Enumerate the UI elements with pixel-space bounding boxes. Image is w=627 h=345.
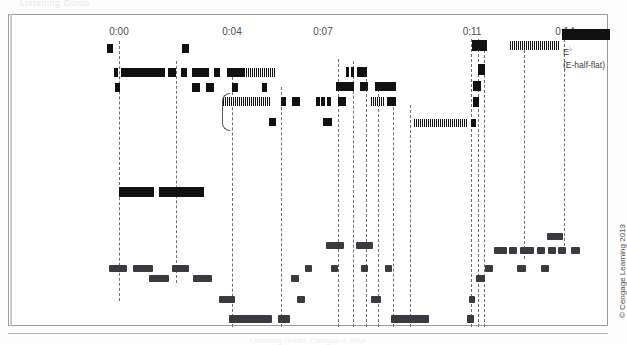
performance-event-bar [375, 82, 396, 91]
performance-event-bar [214, 68, 220, 77]
ghost-header-text: Listening Guide [20, 0, 180, 8]
timeline-plot-area: 0:000:040:070:110:14E♭(E-half-flat) [9, 15, 609, 327]
notation-bar [469, 296, 475, 303]
notation-bar [278, 315, 290, 323]
performance-event-bar [316, 97, 320, 106]
figure-caption-strip: Listening Guide: Dastgah-e Shur [8, 333, 608, 345]
notation-bar [385, 265, 392, 272]
correspondence-dotted-line [524, 45, 525, 259]
notation-bar [547, 233, 563, 240]
notation-bar [371, 296, 381, 303]
notation-bar [571, 247, 580, 254]
notation-bar [517, 265, 526, 272]
performance-event-bar [114, 68, 118, 77]
correspondence-dotted-line [471, 39, 472, 327]
performance-event-bar [223, 97, 271, 106]
performance-event-bar [246, 68, 276, 77]
performance-event-bar [510, 41, 560, 50]
correspondence-dotted-line [232, 77, 233, 327]
notation-bar [219, 296, 235, 303]
correspondence-dotted-line [353, 61, 354, 327]
notation-bar [558, 247, 566, 254]
notation-bar [520, 247, 534, 254]
pitch-label: E♭(E-half-flat) [563, 43, 605, 71]
time-tick-0-07: 0:07 [313, 26, 332, 37]
tetrachord-brace [222, 93, 230, 131]
performance-event-bar [323, 118, 332, 126]
performance-event-bar [192, 68, 209, 77]
notation-bar [541, 265, 549, 272]
performance-event-bar [206, 83, 214, 92]
figure-caption: Listening Guide: Dastgah-e Shur [8, 336, 608, 345]
performance-event-bar [181, 68, 187, 77]
correspondence-dotted-line [119, 41, 120, 301]
performance-event-bar [473, 97, 479, 107]
correspondence-dotted-line [366, 79, 367, 327]
pitch-name: (E-half-flat) [563, 60, 605, 71]
performance-event-bar [232, 83, 238, 92]
notation-bar [109, 265, 127, 272]
performance-event-bar [107, 44, 113, 53]
performance-event-bar [360, 82, 368, 91]
figure-frame: 0:000:040:070:110:14E♭(E-half-flat) [8, 14, 608, 326]
notation-bar [537, 247, 545, 254]
notation-bar [291, 275, 299, 282]
notation-bar [361, 265, 368, 272]
performance-event-bar [387, 97, 396, 106]
performance-event-bar [262, 83, 267, 92]
performance-event-bar [338, 97, 346, 106]
correspondence-dotted-line [378, 89, 379, 327]
performance-event-bar [182, 44, 189, 53]
performance-event-bar [321, 97, 325, 106]
performance-event-bar [119, 187, 154, 197]
notation-bar [485, 265, 493, 272]
notation-bar [548, 247, 556, 254]
performance-event-bar [327, 97, 331, 106]
performance-event-bar [478, 64, 485, 75]
notation-bar [391, 315, 429, 323]
performance-event-bar [269, 118, 276, 126]
performance-event-bar [357, 67, 367, 77]
notation-bar [305, 265, 312, 272]
notation-bar [229, 315, 272, 323]
correspondence-dotted-line [393, 97, 394, 327]
performance-event-bar [281, 97, 286, 106]
notation-bar [193, 275, 212, 282]
performance-event-bar [227, 68, 245, 77]
performance-event-bar [371, 97, 384, 106]
notation-bar [133, 265, 153, 272]
performance-event-bar [121, 68, 165, 77]
copyright-notice: © Cengage Learning 2013 [618, 224, 627, 318]
frame-accent-rule [10, 14, 12, 326]
performance-event-bar [473, 81, 481, 91]
notation-bar [467, 315, 474, 323]
time-tick-0-04: 0:04 [222, 26, 241, 37]
performance-event-bar [351, 67, 354, 77]
time-tick-0-00: 0:00 [109, 26, 128, 37]
performance-event-bar [336, 82, 354, 91]
notation-bar [509, 247, 517, 254]
correspondence-dotted-line [410, 105, 411, 327]
performance-event-bar [168, 68, 176, 77]
performance-event-bar [346, 67, 349, 77]
performance-event-bar [471, 119, 476, 127]
notation-bar [326, 242, 344, 249]
performance-event-bar [159, 187, 204, 197]
time-tick-0-11: 0:11 [463, 26, 482, 37]
performance-event-bar [192, 83, 200, 92]
performance-event-bar [115, 83, 120, 92]
notation-bar [149, 275, 169, 282]
notation-bar [172, 265, 189, 272]
koron-accidental-icon: ♭ [569, 45, 572, 52]
notation-bar [331, 265, 338, 272]
performance-event-bar [562, 29, 610, 40]
notation-bar [476, 275, 485, 282]
notation-bar [356, 242, 373, 249]
performance-event-bar [472, 40, 487, 51]
correspondence-dotted-line [484, 45, 485, 327]
performance-event-bar [292, 97, 300, 106]
correspondence-dotted-line [281, 87, 282, 327]
performance-event-bar [414, 119, 468, 127]
notation-bar [494, 247, 507, 254]
